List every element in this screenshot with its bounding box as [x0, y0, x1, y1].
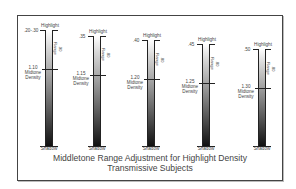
density-gradient-bar — [202, 44, 210, 146]
highlight-label: Highlight — [39, 23, 61, 28]
range-label: .80Range — [266, 62, 276, 75]
highlight-label: Highlight — [87, 29, 109, 34]
density-gradient-bar — [258, 49, 266, 146]
highlight-value: .40 — [133, 38, 139, 43]
range-value: .80 — [106, 51, 111, 57]
range-label: .90Range — [53, 42, 63, 55]
shadow-label: Shadow — [86, 146, 108, 151]
density-gradient-bar — [93, 36, 101, 146]
shadow-label: Shadow — [38, 146, 60, 151]
midtone-tick — [255, 88, 271, 89]
range-text: Range — [53, 42, 58, 55]
highlight-label: Highlight — [141, 33, 163, 38]
density-label: Density — [70, 81, 92, 86]
midtone-tick — [144, 79, 160, 80]
highlight-value: .35 — [79, 34, 85, 39]
density-gradient-bar — [147, 40, 155, 146]
range-value: .80 — [160, 56, 165, 62]
range-value: .80 — [215, 60, 220, 66]
highlight-value: .50 — [244, 47, 250, 52]
range-text: Range — [210, 57, 215, 70]
shadow-label: Shadow — [140, 146, 162, 151]
range-label: .80Range — [101, 48, 111, 61]
range-text: Range — [266, 62, 271, 75]
midtone-tick — [199, 83, 215, 84]
density-label: Density — [235, 94, 257, 99]
highlight-value: .20-.30 — [24, 28, 38, 33]
density-label: Density — [124, 85, 146, 90]
range-text: Range — [155, 53, 160, 66]
range-text: Range — [101, 48, 106, 61]
density-gradient-bar — [45, 30, 53, 146]
highlight-label: Highlight — [252, 42, 274, 47]
highlight-label: Highlight — [196, 37, 218, 42]
shadow-label: Shadow — [195, 146, 217, 151]
density-label: Density — [179, 89, 201, 94]
density-label: Density — [22, 75, 44, 80]
highlight-value: .45 — [188, 42, 194, 47]
range-value: .80 — [271, 65, 276, 71]
range-label: .80Range — [210, 57, 220, 70]
range-label: .80Range — [155, 53, 165, 66]
range-value: .90 — [58, 45, 63, 51]
midtone-tick — [42, 69, 58, 70]
midtone-tick — [90, 75, 106, 76]
diagram-subtitle: Transmissive Subjects — [17, 163, 283, 173]
diagram-title: Middletone Range Adjustment for Highligh… — [17, 153, 283, 163]
shadow-label: Shadow — [251, 146, 273, 151]
